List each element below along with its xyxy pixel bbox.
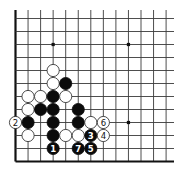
black-stone-disc [47, 103, 59, 115]
white-stone [85, 116, 97, 128]
black-stone [72, 103, 84, 115]
white-stone [72, 129, 84, 141]
black-stone [47, 103, 59, 115]
go-board: 2634175 [0, 0, 186, 175]
white-stone [60, 129, 72, 141]
white-stone-move-2: 2 [9, 116, 21, 128]
star-point [127, 43, 130, 46]
white-stone-move-6: 6 [97, 116, 109, 128]
black-stone [22, 116, 34, 128]
black-stone-disc [47, 129, 59, 141]
black-stone [60, 77, 72, 89]
black-stone-move-3: 3 [85, 129, 97, 141]
move-number-label: 3 [88, 131, 94, 141]
white-stone-disc [22, 129, 34, 141]
white-stone [47, 77, 59, 89]
white-stone-disc [47, 64, 59, 76]
star-point [127, 121, 130, 124]
white-stone [35, 90, 47, 102]
white-stone-disc [72, 129, 84, 141]
black-stone-disc [22, 116, 34, 128]
white-stone-disc [22, 90, 34, 102]
move-number-label: 6 [101, 118, 106, 128]
black-stone-disc [72, 116, 84, 128]
black-stone [47, 116, 59, 128]
black-stone [35, 103, 47, 115]
white-stone-disc [85, 116, 97, 128]
black-stone-disc [35, 103, 47, 115]
black-stone-disc [60, 77, 72, 89]
white-stone [22, 103, 34, 115]
move-number-label: 5 [88, 144, 94, 154]
black-stone-move-5: 5 [85, 142, 97, 154]
white-stone-disc [47, 77, 59, 89]
white-stone [22, 129, 34, 141]
black-stone [47, 129, 59, 141]
black-stone-move-1: 1 [47, 142, 59, 154]
black-stone [47, 90, 59, 102]
black-stone-disc [47, 90, 59, 102]
white-stone [60, 90, 72, 102]
white-stone-disc [22, 103, 34, 115]
move-number-label: 7 [75, 144, 81, 154]
star-point [52, 43, 55, 46]
white-stone [47, 64, 59, 76]
white-stone-disc [60, 129, 72, 141]
white-stone [22, 90, 34, 102]
move-number-label: 1 [50, 144, 56, 154]
black-stone-move-7: 7 [72, 142, 84, 154]
black-stone-disc [72, 103, 84, 115]
move-number-label: 2 [13, 118, 18, 128]
white-stone-disc [35, 90, 47, 102]
black-stone [72, 116, 84, 128]
white-stone-disc [60, 90, 72, 102]
black-stone-disc [47, 116, 59, 128]
move-number-label: 4 [101, 131, 106, 141]
white-stone-move-4: 4 [97, 129, 109, 141]
